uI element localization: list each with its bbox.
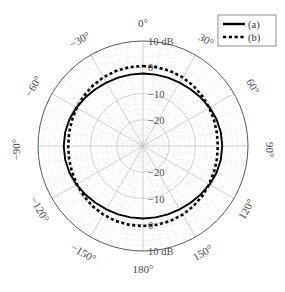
angle-tick-label: 90° [264, 142, 276, 157]
polar-plot-svg: 0°30°60°90°120°150°180°−150°−120°−90°−60… [0, 0, 285, 292]
radial-tick-label-bottom: 0 [148, 220, 153, 231]
legend-label-a: (a) [248, 19, 260, 31]
radial-tick-label-bottom: −10 [148, 194, 164, 205]
angle-tick-label: 180° [133, 263, 154, 275]
radial-tick-label-top: −10 [148, 89, 164, 100]
angle-tick-label: −90° [10, 139, 22, 161]
radial-tick-label-top: 10 dB [148, 36, 173, 47]
legend-box [218, 15, 276, 46]
radial-tick-label-top: −20 [148, 115, 164, 126]
angle-tick-label: 0° [138, 17, 148, 29]
radial-tick-label-bottom: −20 [148, 167, 164, 178]
radial-tick-label-top: 0 [148, 62, 153, 73]
legend: (a) (b) [218, 15, 276, 46]
radial-tick-label-bottom: 10 dB [148, 246, 173, 257]
legend-label-b: (b) [248, 32, 261, 44]
polar-chart-figure: 0°30°60°90°120°150°180°−150°−120°−90°−60… [0, 0, 285, 292]
